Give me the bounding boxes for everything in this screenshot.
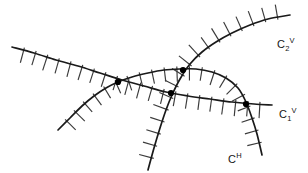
label-ch-base: C xyxy=(228,153,236,165)
diagram-svg xyxy=(0,0,308,173)
label-c1v-superscript: V xyxy=(292,106,297,115)
curve-ch xyxy=(58,69,262,155)
label-c1v-subscript: 1 xyxy=(287,114,291,123)
label-c2v-subscript: 2 xyxy=(285,44,289,53)
label-c2v-superscript: V xyxy=(290,36,295,45)
node-c1v-ch-left xyxy=(115,79,121,85)
curve-c1v xyxy=(12,47,272,105)
node-c2v-ch-top xyxy=(180,67,186,73)
label-c2v-base: C xyxy=(277,38,285,50)
hatch-layer xyxy=(20,5,278,159)
node-c1v-ch-right xyxy=(243,101,249,107)
curve-label-c1v: C1V xyxy=(279,107,297,122)
hatch-group-ch xyxy=(65,66,262,145)
label-ch-superscript: H xyxy=(236,151,242,160)
figure-canvas: C2V C1V CH xyxy=(0,0,308,173)
label-c1v-base: C xyxy=(279,108,287,120)
curve-label-c2v: C2V xyxy=(277,37,295,52)
node-c1v-c2v xyxy=(168,90,174,96)
curve-label-ch: CH xyxy=(228,152,242,165)
hatch-group-c1v xyxy=(20,48,260,118)
